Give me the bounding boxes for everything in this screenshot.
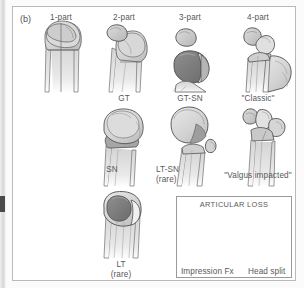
label-classic: "Classic" bbox=[241, 94, 274, 104]
illustration-2-part bbox=[107, 25, 147, 92]
figure-root: (b) 1-part 2-part 3-part 4-part bbox=[0, 0, 304, 288]
articular-loss-title: ARTICULAR LOSS bbox=[200, 200, 268, 210]
label-sn: SN bbox=[106, 165, 118, 175]
label-lt-rare: (rare) bbox=[111, 270, 132, 280]
label-gt: GT bbox=[118, 94, 130, 104]
label-head-split: Head split bbox=[248, 267, 285, 277]
label-gt-sn: GT-SN bbox=[177, 94, 203, 104]
label-valgus-impacted: "Valgus impacted" bbox=[224, 171, 291, 181]
label-lt: LT bbox=[116, 260, 125, 270]
label-lt-sn: LT-SN bbox=[156, 165, 179, 175]
illustration-3-part bbox=[171, 29, 209, 92]
label-impression-fx: Impression Fx bbox=[181, 267, 234, 277]
illustration-lt bbox=[104, 191, 141, 258]
illustration-1-part bbox=[45, 21, 81, 92]
label-lt-sn-rare: (rare) bbox=[156, 175, 177, 185]
illustration-4-part bbox=[244, 28, 291, 92]
